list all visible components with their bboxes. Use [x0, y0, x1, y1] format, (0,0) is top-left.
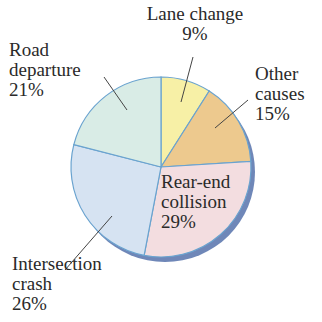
- label-rear-end: Rear-end collision 29%: [161, 172, 230, 232]
- label-road-departure: Road departure 21%: [9, 40, 81, 100]
- label-other-causes: Other causes 15%: [255, 64, 305, 124]
- label-lane-change: Lane change 9%: [134, 4, 256, 44]
- label-intersection: Intersection crash 26%: [12, 254, 102, 314]
